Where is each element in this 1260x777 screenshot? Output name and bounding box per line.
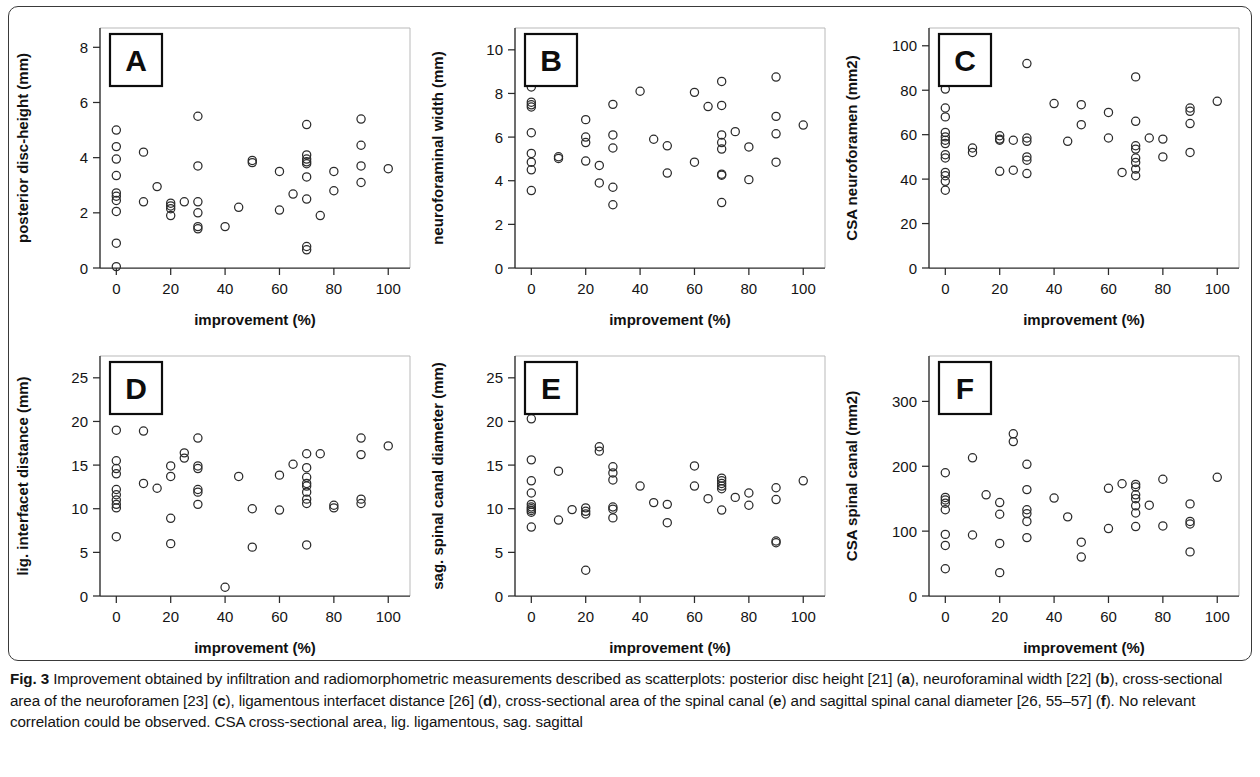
data-point <box>942 177 950 185</box>
data-point <box>608 131 616 139</box>
y-tick-label: 300 <box>892 392 917 409</box>
x-tick-label: 100 <box>790 280 815 297</box>
data-point <box>275 167 283 175</box>
data-point <box>969 453 977 461</box>
caption-ref-d: d <box>483 692 492 709</box>
x-tick-label: 80 <box>740 608 757 625</box>
data-point <box>153 183 161 191</box>
data-point <box>527 158 535 166</box>
panel-letter: A <box>125 44 147 77</box>
y-tick-label: 0 <box>80 260 88 277</box>
y-tick-label: 6 <box>80 94 88 111</box>
data-point <box>235 472 243 480</box>
data-point <box>942 564 950 572</box>
y-tick-label: 2 <box>80 204 88 221</box>
data-point <box>717 505 725 513</box>
y-tick-label: 8 <box>80 39 88 56</box>
caption-text-4: ), ligamentous interfacet distance [26] … <box>225 692 483 709</box>
data-point <box>194 198 202 206</box>
data-point <box>581 138 589 146</box>
x-tick-label: 40 <box>631 608 648 625</box>
data-point <box>744 488 752 496</box>
x-tick-label: 0 <box>941 280 949 297</box>
y-tick-label: 0 <box>909 260 917 277</box>
data-point <box>357 115 365 123</box>
data-point <box>554 467 562 475</box>
data-point <box>303 449 311 457</box>
scatterplot-e: 0204060801000510152025improvement (%)sag… <box>423 334 837 661</box>
x-axis-title: improvement (%) <box>609 311 731 328</box>
data-point <box>194 162 202 170</box>
y-tick-label: 0 <box>80 587 88 604</box>
data-point <box>996 167 1004 175</box>
data-point <box>1159 135 1167 143</box>
data-point <box>1105 484 1113 492</box>
data-point <box>1132 73 1140 81</box>
x-tick-label: 20 <box>577 280 594 297</box>
data-point <box>717 198 725 206</box>
data-point <box>221 223 229 231</box>
y-tick-label: 0 <box>494 587 502 604</box>
data-point <box>112 532 120 540</box>
x-tick-label: 60 <box>686 280 703 297</box>
data-point <box>112 426 120 434</box>
x-tick-label: 40 <box>217 608 234 625</box>
panel-letter: B <box>540 44 562 77</box>
data-point <box>996 568 1004 576</box>
data-point <box>1145 501 1153 509</box>
y-tick-label: 4 <box>494 172 502 189</box>
x-tick-label: 80 <box>1155 608 1172 625</box>
x-tick-label: 60 <box>271 608 288 625</box>
data-point <box>289 190 297 198</box>
data-point <box>1145 134 1153 142</box>
data-point <box>153 484 161 492</box>
data-point <box>1010 136 1018 144</box>
data-point <box>772 483 780 491</box>
x-axis-title: improvement (%) <box>609 639 731 656</box>
data-point <box>1118 168 1126 176</box>
data-point <box>303 463 311 471</box>
x-tick-label: 20 <box>992 608 1009 625</box>
panel-a: 02040608010002468improvement (%)posterio… <box>8 6 423 334</box>
data-point <box>717 131 725 139</box>
x-tick-label: 20 <box>992 280 1009 297</box>
data-point <box>303 120 311 128</box>
data-point <box>1105 108 1113 116</box>
data-point <box>1186 547 1194 555</box>
data-point-group <box>942 429 1222 576</box>
scatterplot-b: 0204060801000246810improvement (%)neurof… <box>423 6 837 333</box>
data-point <box>303 173 311 181</box>
y-tick-label: 10 <box>486 500 503 517</box>
data-point <box>982 490 990 498</box>
y-tick-label: 100 <box>892 522 917 539</box>
data-point <box>303 195 311 203</box>
panel-grid: 02040608010002468improvement (%)posterio… <box>8 6 1252 661</box>
x-tick-label: 0 <box>112 280 120 297</box>
data-point <box>942 104 950 112</box>
data-point <box>581 157 589 165</box>
x-tick-label: 100 <box>1205 608 1230 625</box>
data-point <box>595 179 603 187</box>
data-point <box>1186 148 1194 156</box>
data-point <box>527 455 535 463</box>
x-tick-label: 60 <box>1100 608 1117 625</box>
data-point <box>527 186 535 194</box>
x-tick-label: 0 <box>527 280 535 297</box>
x-axis-title: improvement (%) <box>194 639 316 656</box>
data-point <box>996 498 1004 506</box>
data-point <box>112 155 120 163</box>
panel-letter: D <box>125 372 147 405</box>
data-point <box>996 539 1004 547</box>
data-point <box>527 414 535 422</box>
data-point <box>112 126 120 134</box>
data-point <box>1078 121 1086 129</box>
data-point <box>316 449 324 457</box>
data-point <box>1105 134 1113 142</box>
y-tick-label: 15 <box>486 456 503 473</box>
caption-figure-number: Fig. 3 <box>10 670 49 687</box>
data-point <box>996 510 1004 518</box>
data-point <box>636 87 644 95</box>
y-tick-label: 25 <box>486 369 503 386</box>
y-axis-title: lig. interfacet distance (mm) <box>14 376 31 575</box>
data-point <box>1132 522 1140 530</box>
